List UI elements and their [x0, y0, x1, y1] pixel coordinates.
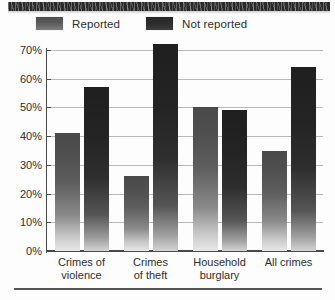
bar-group: [254, 50, 323, 251]
bar-reported: [124, 176, 149, 251]
bar-group: [47, 50, 116, 251]
bar-groups: [47, 50, 323, 251]
legend-label-not-reported: Not reported: [182, 18, 247, 30]
chart-legend: Reported Not reported: [36, 17, 247, 30]
not-reported-swatch-icon: [146, 17, 173, 30]
bar-reported: [262, 151, 287, 252]
category-label-line: Crimes: [116, 256, 185, 269]
y-tick-label: 40%: [20, 130, 42, 142]
bar-reported: [55, 133, 80, 251]
bar-group: [116, 50, 185, 251]
bar-notreported: [291, 67, 316, 251]
category-label: All crimes: [254, 256, 323, 281]
category-label-line: All crimes: [254, 256, 323, 269]
y-tick-label: 70%: [20, 44, 42, 56]
bar-notreported: [153, 44, 178, 251]
category-label: Crimes ofviolence: [47, 256, 116, 281]
scan-artifact-fade: [8, 11, 330, 14]
bar-reported: [193, 107, 218, 251]
y-tick-label: 10%: [20, 216, 42, 228]
category-label-line: of theft: [116, 269, 185, 282]
category-label: Householdburglary: [185, 256, 254, 281]
bar-group: [185, 50, 254, 251]
bar-notreported: [222, 110, 247, 251]
y-tick-label: 0%: [26, 245, 42, 257]
y-tick-label: 30%: [20, 159, 42, 171]
legend-item-not-reported: Not reported: [146, 17, 247, 30]
category-label-line: burglary: [185, 269, 254, 282]
y-tick-label: 20%: [20, 188, 42, 200]
chart-figure: Reported Not reported 70%60%50%40%30%20%…: [0, 0, 335, 300]
y-tick-label: 60%: [20, 73, 42, 85]
legend-item-reported: Reported: [36, 17, 120, 30]
category-label-line: violence: [47, 269, 116, 282]
scan-artifact-band: [8, 2, 330, 11]
legend-label-reported: Reported: [72, 18, 120, 30]
category-label: Crimesof theft: [116, 256, 185, 281]
footer-rule: [14, 288, 322, 290]
x-axis-category-labels: Crimes ofviolenceCrimesof theftHousehold…: [47, 256, 323, 281]
category-label-line: Crimes of: [47, 256, 116, 269]
y-axis-tick-labels: 70%60%50%40%30%20%10%0%: [0, 0, 42, 300]
y-tick-label: 50%: [20, 101, 42, 113]
bar-notreported: [84, 87, 109, 251]
category-label-line: Household: [185, 256, 254, 269]
